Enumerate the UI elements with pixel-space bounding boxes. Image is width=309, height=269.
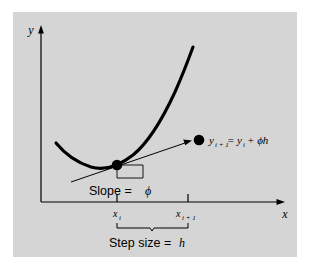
tick-label-xi1-subscript: i + 1 — [182, 214, 196, 222]
point-xi-yi-marker — [112, 160, 123, 171]
euler-equation-label: y i + 1 = y i + ϕh — [208, 134, 269, 149]
x-axis-label: x — [281, 207, 288, 221]
x-axis — [41, 199, 285, 205]
figure-panel: y x x i x i + 1 — [13, 12, 297, 257]
solution-curve — [56, 47, 193, 168]
slope-label: Slope = — [89, 184, 132, 198]
step-size-symbol: h — [179, 236, 185, 250]
step-size-label: Step size = — [109, 236, 171, 250]
euler-rhs-subscript: i — [243, 141, 245, 149]
slope-annotation: Slope = ϕ — [89, 184, 151, 198]
euler-rhs-base: y — [236, 134, 242, 146]
euler-equals-sign: = — [227, 134, 234, 146]
figure-root: y x x i x i + 1 — [0, 0, 309, 269]
step-size-annotation: Step size = h — [109, 236, 185, 250]
y-axis-label: y — [27, 23, 34, 37]
point-xi1-yi1-marker — [194, 135, 205, 146]
step-size-brace — [117, 223, 188, 231]
euler-rhs-tail: + ϕh — [247, 134, 269, 146]
euler-method-diagram: y x x i x i + 1 — [13, 12, 297, 257]
tick-label-xi1-base: x — [175, 208, 181, 219]
y-axis — [38, 25, 44, 202]
tick-label-xi-base: x — [112, 208, 118, 219]
tick-label-xi: x i — [112, 208, 121, 222]
tangent-line — [71, 139, 192, 182]
tick-label-xi-subscript: i — [119, 214, 121, 222]
euler-lhs-base: y — [208, 134, 214, 146]
slope-symbol: ϕ — [145, 184, 151, 198]
tick-label-xi1: x i + 1 — [175, 208, 196, 222]
